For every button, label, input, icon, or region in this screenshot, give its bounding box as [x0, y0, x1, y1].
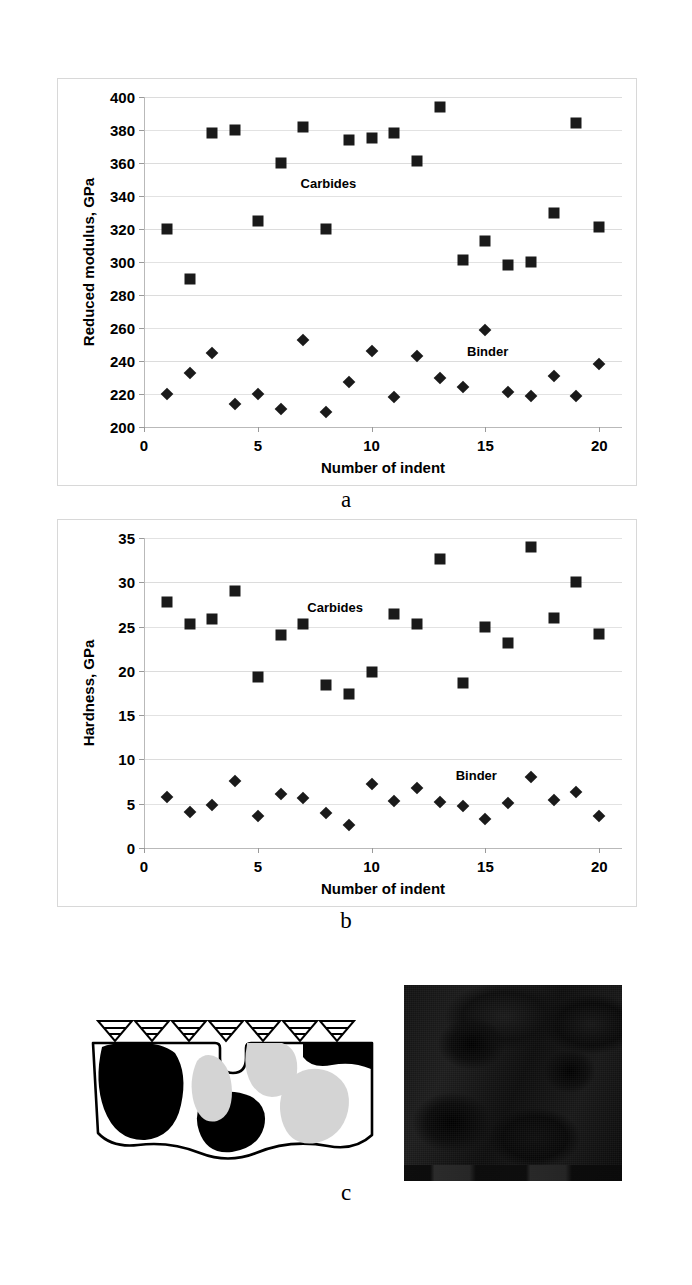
data-point-binder	[206, 346, 219, 359]
x-tick-mark	[144, 427, 145, 432]
data-point-binder	[183, 366, 196, 379]
x-tick-label: 0	[140, 437, 148, 454]
x-tick-label: 5	[254, 858, 262, 875]
x-tick-label: 0	[140, 858, 148, 875]
data-point-carbides	[389, 128, 400, 139]
data-point-binder	[411, 781, 424, 794]
data-point-carbides	[434, 554, 445, 565]
y-axis-title: Hardness, GPa	[80, 640, 97, 747]
gridline-horizontal	[144, 582, 622, 583]
data-point-carbides	[571, 577, 582, 588]
data-point-binder	[183, 805, 196, 818]
micrograph-texture	[404, 985, 622, 1181]
data-point-carbides	[275, 630, 286, 641]
series-label-binder: Binder	[467, 344, 508, 359]
y-axis-line	[144, 97, 145, 427]
gridline-horizontal	[144, 295, 622, 296]
data-point-carbides	[503, 260, 514, 271]
gridline-horizontal	[144, 97, 622, 98]
data-point-binder	[547, 369, 560, 382]
gridline-horizontal	[144, 627, 622, 628]
data-point-binder	[456, 800, 469, 813]
y-axis-title: Reduced modulus, GPa	[80, 178, 97, 346]
indentation-schematic	[60, 985, 390, 1165]
indenter-tip-icon	[209, 1021, 243, 1041]
panel-letter-b: b	[340, 908, 352, 934]
data-point-binder	[229, 398, 242, 411]
plot-area-b	[144, 538, 622, 848]
data-point-binder	[570, 786, 583, 799]
data-point-binder	[365, 345, 378, 358]
x-tick-mark	[258, 848, 259, 853]
data-point-binder	[434, 371, 447, 384]
y-axis-line	[144, 538, 145, 848]
data-point-binder	[479, 323, 492, 336]
data-point-carbides	[594, 222, 605, 233]
gridline-horizontal	[144, 262, 622, 263]
data-point-binder	[593, 810, 606, 823]
x-tick-mark	[372, 427, 373, 432]
data-point-carbides	[366, 666, 377, 677]
sem-micrograph	[404, 985, 622, 1181]
data-point-binder	[502, 796, 515, 809]
x-tick-mark	[144, 848, 145, 853]
data-point-binder	[342, 819, 355, 832]
data-point-carbides	[480, 235, 491, 246]
data-point-carbides	[230, 586, 241, 597]
indenter-tip-icon	[320, 1021, 354, 1041]
x-axis-title: Number of indent	[321, 459, 445, 476]
x-tick-mark	[599, 848, 600, 853]
x-tick-label: 20	[591, 437, 608, 454]
data-point-carbides	[525, 257, 536, 268]
data-point-carbides	[275, 158, 286, 169]
x-tick-label: 10	[363, 437, 380, 454]
y-tick-label: 0	[58, 840, 135, 857]
y-tick-label: 30	[58, 574, 135, 591]
x-tick-label: 5	[254, 437, 262, 454]
data-point-binder	[160, 388, 173, 401]
gridline-horizontal	[144, 163, 622, 164]
data-point-carbides	[594, 628, 605, 639]
data-point-binder	[525, 389, 538, 402]
data-point-carbides	[343, 688, 354, 699]
data-point-binder	[274, 402, 287, 415]
data-point-carbides	[480, 621, 491, 632]
gridline-horizontal	[144, 229, 622, 230]
data-point-binder	[342, 376, 355, 389]
data-point-binder	[593, 358, 606, 371]
data-point-binder	[570, 389, 583, 402]
data-point-binder	[320, 806, 333, 819]
data-point-carbides	[343, 134, 354, 145]
plot-area-a	[144, 97, 622, 427]
gridline-horizontal	[144, 759, 622, 760]
x-tick-mark	[258, 427, 259, 432]
data-point-binder	[525, 771, 538, 784]
x-tick-label: 10	[363, 858, 380, 875]
gridline-horizontal	[144, 394, 622, 395]
data-point-binder	[251, 388, 264, 401]
series-label-carbides: Carbides	[301, 175, 357, 190]
indenter-tip-icon	[135, 1021, 169, 1041]
data-point-carbides	[457, 255, 468, 266]
gridline-horizontal	[144, 328, 622, 329]
series-label-carbides: Carbides	[307, 600, 363, 615]
data-point-carbides	[207, 128, 218, 139]
y-tick-label: 5	[58, 795, 135, 812]
data-point-carbides	[412, 156, 423, 167]
data-point-binder	[502, 386, 515, 399]
data-point-carbides	[571, 118, 582, 129]
chart-panel-a: 2002202402602803003203403603804000510152…	[57, 78, 637, 486]
chart-panel-b: 0510152025303505101520Number of indentHa…	[57, 519, 637, 907]
y-tick-label: 400	[58, 89, 135, 106]
data-point-carbides	[298, 618, 309, 629]
x-tick-mark	[372, 848, 373, 853]
y-tick-label: 25	[58, 618, 135, 635]
x-tick-mark	[599, 427, 600, 432]
y-tick-label: 35	[58, 530, 135, 547]
gridline-horizontal	[144, 538, 622, 539]
panel-c: c	[0, 965, 692, 1195]
micrograph-image	[404, 985, 622, 1181]
x-axis-title: Number of indent	[321, 880, 445, 897]
data-point-binder	[229, 774, 242, 787]
data-point-binder	[456, 381, 469, 394]
